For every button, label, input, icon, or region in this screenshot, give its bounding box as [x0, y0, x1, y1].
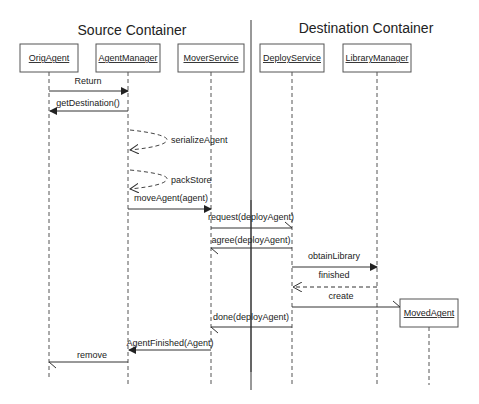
source-container-title: Source Container [78, 22, 187, 38]
svg-text:finished: finished [318, 270, 349, 280]
lifeline-label: DeployService [263, 53, 321, 63]
message-agent-finished: AgentFinished(Agent) [126, 338, 213, 350]
message-create: create [292, 291, 400, 307]
lifeline-agent-manager: AgentManager [96, 44, 160, 385]
svg-text:serializeAgent: serializeAgent [171, 135, 228, 145]
lifeline-label: MoverService [183, 53, 238, 63]
svg-text:done(deployAgent): done(deployAgent) [213, 312, 289, 322]
message-remove: remove [49, 350, 128, 362]
svg-text:getDestination(): getDestination() [56, 98, 120, 108]
lifeline-label: LibraryManager [345, 53, 408, 63]
svg-text:AgentFinished(Agent): AgentFinished(Agent) [126, 338, 213, 348]
svg-text:create: create [328, 291, 353, 301]
lifeline-library-manager: LibraryManager [343, 44, 411, 385]
svg-text:request(deployAgent): request(deployAgent) [208, 212, 294, 222]
svg-text:Return: Return [74, 76, 101, 86]
lifeline-label: MovedAgent [404, 308, 455, 318]
destination-container-title: Destination Container [299, 20, 434, 36]
svg-text:moveAgent(agent): moveAgent(agent) [134, 193, 208, 203]
lifeline-label: AgentManager [98, 53, 157, 63]
svg-text:remove: remove [77, 350, 107, 360]
svg-text:agree(deployAgent): agree(deployAgent) [211, 235, 290, 245]
message-serialize-agent: serializeAgent [130, 130, 228, 150]
svg-text:packStore: packStore [171, 175, 212, 185]
lifeline-moved-agent: MovedAgent [400, 299, 458, 385]
sequence-diagram: Source Container Destination Container O… [0, 0, 479, 404]
message-get-destination: getDestination() [50, 98, 128, 111]
lifeline-orig-agent: OrigAgent [20, 44, 78, 380]
message-finished: finished [293, 270, 377, 287]
message-pack-store: packStore [130, 170, 212, 189]
message-return: Return [49, 76, 128, 91]
message-move-agent: moveAgent(agent) [128, 193, 211, 209]
svg-text:obtainLibrary: obtainLibrary [308, 251, 361, 261]
message-obtain-library: obtainLibrary [292, 251, 377, 267]
lifeline-label: OrigAgent [29, 53, 70, 63]
